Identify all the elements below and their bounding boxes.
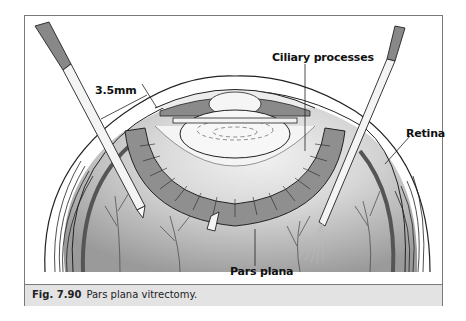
figure-frame: 3.5mm Ciliary processes Retina Pars plan… xyxy=(24,15,443,306)
label-retina: Retina xyxy=(406,127,445,140)
label-ciliary-processes: Ciliary processes xyxy=(272,51,374,64)
dimension-label: 3.5mm xyxy=(95,84,136,97)
lens xyxy=(180,110,290,158)
figure-caption: Fig. 7.90Pars plana vitrectomy. xyxy=(25,284,442,306)
eye-cross-section-illustration xyxy=(25,16,444,284)
caption-text: Pars plana vitrectomy. xyxy=(86,289,197,300)
caption-number: Fig. 7.90 xyxy=(32,289,81,300)
label-pars-plana: Pars plana xyxy=(230,265,293,278)
